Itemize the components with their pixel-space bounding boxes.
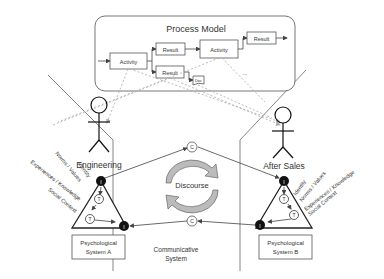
psych-system-b-box	[259, 235, 312, 259]
t-node-b1-label: T	[282, 196, 285, 202]
psych-system-a-box	[72, 235, 125, 259]
identity-node-b-label: I	[283, 179, 284, 185]
psych-a-line1: Psychological	[80, 240, 117, 246]
process-model: Process Model Activity Result Result Act…	[95, 16, 295, 91]
psych-system-b: Identity Norms / Values Experiences / Kn…	[255, 169, 356, 259]
ellipsis: ...	[242, 70, 247, 76]
communicative-system-line1: Communicative	[154, 246, 199, 253]
after-sales-label: After Sales	[263, 161, 305, 171]
result-label-1: Result	[163, 47, 179, 53]
activity-label-1: Activity	[120, 59, 138, 65]
result-label-3: Result	[254, 36, 270, 42]
t-node-a1-label: T	[97, 196, 100, 202]
engineering-actor-icon	[88, 97, 110, 152]
result-label-2: Result	[162, 70, 178, 76]
diagram-canvas: Process Model Activity Result Result Act…	[0, 0, 384, 279]
discourse-cycle-icon: Discourse	[166, 160, 218, 213]
c-node-top-label: C	[190, 144, 194, 150]
identity-node-a-label: I	[100, 179, 101, 185]
activity-label-2: Activity	[210, 47, 228, 53]
after-sales-actor-icon	[272, 107, 294, 158]
discourse-label: Discourse	[175, 181, 208, 190]
doc-label: Doc	[195, 79, 202, 83]
t-node-b2-label: T	[292, 212, 295, 218]
t-node-a2-label: T	[88, 216, 91, 222]
c-node-bottom-label: C	[190, 218, 194, 224]
psych-a-line2: System A	[86, 249, 111, 255]
psych-b-line2: System B	[273, 249, 299, 255]
process-model-title: Process Model	[166, 24, 226, 34]
identity-node-a2-label: I	[123, 224, 124, 230]
identity-node-b2-label: I	[259, 223, 260, 229]
psych-b-line1: Psychological	[267, 240, 304, 246]
communicative-system-line2: System	[165, 255, 187, 263]
